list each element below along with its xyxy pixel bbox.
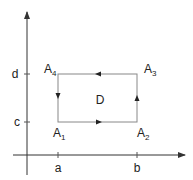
svg-text:A3: A3 [144, 62, 157, 78]
arrow-down-icon [56, 93, 61, 99]
x-tick-label-a: a [55, 161, 62, 175]
vertex-label-a2: A2 [137, 126, 150, 142]
region-label: D [96, 93, 105, 107]
svg-text:A2: A2 [137, 126, 150, 142]
region-diagram: a b c d D A1 A2 A3 A4 [0, 0, 193, 180]
vertex-label-a1: A1 [53, 126, 66, 142]
arrow-right-icon [96, 120, 102, 125]
vertex-label-a3: A3 [144, 62, 157, 78]
vertex-label-a4: A4 [44, 62, 57, 78]
svg-text:A1: A1 [53, 126, 66, 142]
arrow-left-icon [95, 72, 101, 77]
arrow-up-icon [135, 95, 140, 101]
y-tick-label-d: d [12, 67, 19, 81]
svg-text:A4: A4 [44, 62, 57, 78]
y-tick-label-c: c [14, 115, 20, 129]
x-tick-label-b: b [134, 161, 141, 175]
